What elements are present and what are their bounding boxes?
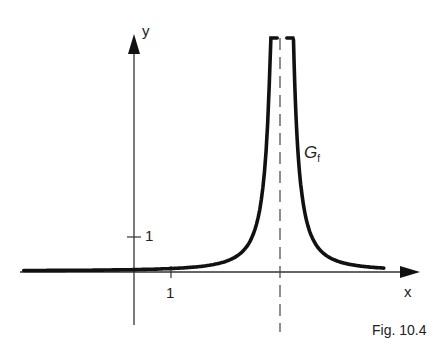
curve-gf xyxy=(24,38,384,271)
x-tick-label: 1 xyxy=(166,284,174,301)
figure-caption: Fig. 10.4 xyxy=(372,322,426,338)
y-tick-label: 1 xyxy=(145,227,153,244)
x-axis-arrow-icon xyxy=(400,266,420,278)
curve-label: Gf xyxy=(304,143,320,164)
curve-label-main: G xyxy=(304,143,317,162)
x-axis-label: x xyxy=(404,283,412,300)
y-axis-label: y xyxy=(142,22,150,39)
figure: y x 1 1 Gf Fig. 10.4 xyxy=(0,0,445,357)
plot-canvas xyxy=(0,0,445,357)
y-axis-arrow-icon xyxy=(128,34,140,54)
curve-label-sub: f xyxy=(317,153,320,164)
